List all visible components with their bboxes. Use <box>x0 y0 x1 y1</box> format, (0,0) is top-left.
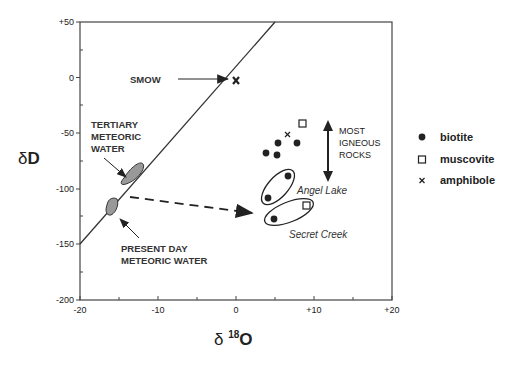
smow-marker <box>233 77 239 84</box>
tertiary-label: TERTIARY METEORIC WATER <box>91 119 144 154</box>
amphibole-legend-icon <box>420 178 425 183</box>
biotite-legend-icon <box>419 134 426 141</box>
legend-label: muscovite <box>440 153 494 165</box>
arrow-down-icon <box>323 171 333 182</box>
smow-label: SMOW <box>130 74 161 85</box>
legend-label: biotite <box>440 131 473 143</box>
present-meteoric-water-field <box>106 198 118 215</box>
biotite-point <box>274 152 281 159</box>
y-tick: +50 <box>59 17 74 27</box>
y-tick-labels: +50 0 -50 -100 -150 -200 <box>56 17 74 305</box>
biotite-point <box>263 150 270 157</box>
x-tick: 0 <box>233 305 238 315</box>
y-tick: -100 <box>56 184 74 194</box>
x-tick: -10 <box>151 305 164 315</box>
isotope-shift-arrow <box>130 197 252 213</box>
legend-label: amphibole <box>440 174 495 186</box>
x-axis-title: δ 18O <box>214 329 253 349</box>
y-tick: -150 <box>56 239 74 249</box>
y-tick: -50 <box>61 128 74 138</box>
x-tick: -20 <box>73 305 86 315</box>
biotite-point <box>271 216 278 223</box>
igneous-rocks-label: MOST IGNEOUS ROCKS <box>339 126 383 160</box>
amphibole-point <box>285 132 290 137</box>
angel-lake-label: Angel Lake <box>296 185 347 196</box>
biotite-point <box>294 140 301 147</box>
muscovite-point <box>303 202 310 209</box>
x-tick: +10 <box>306 305 321 315</box>
muscovite-point <box>299 120 306 127</box>
present-day-label: PRESENT DAY METEORIC WATER <box>121 243 208 266</box>
x-tick: +20 <box>384 305 399 315</box>
biotite-point <box>275 140 282 147</box>
tertiary-arrow <box>104 158 126 177</box>
muscovite-legend-icon <box>419 156 426 163</box>
x-tick-labels: -20 -10 0 +10 +20 <box>73 305 399 315</box>
biotite-point <box>285 173 292 180</box>
angel-lake-outline <box>256 164 300 210</box>
secret-creek-label: Secret Creek <box>289 229 348 240</box>
tertiary-meteoric-water-field <box>121 163 143 185</box>
y-tick: -200 <box>56 295 74 305</box>
y-tick: 0 <box>69 73 74 83</box>
present-day-arrow <box>120 219 139 238</box>
arrow-up-icon <box>323 120 333 131</box>
biotite-point <box>265 195 272 202</box>
y-axis-title: δD <box>18 149 40 168</box>
legend: biotite muscovite amphibole <box>419 131 496 186</box>
delta-d-vs-delta-18o-chart: +50 0 -50 -100 -150 -200 -20 -10 0 +10 +… <box>0 0 512 367</box>
